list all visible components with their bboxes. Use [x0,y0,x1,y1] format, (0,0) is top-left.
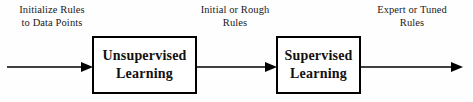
caption-rough-line-1: Initial or Rough [184,4,286,17]
caption-initialize-line-2: to Data Points [0,17,104,30]
caption-initialize-line-1: Initialize Rules [0,4,104,17]
caption-expert-or-tuned-rules: Expert or Tuned Rules [358,4,466,29]
box-supervised-line-2: Learning [290,65,347,83]
caption-expert-line-1: Expert or Tuned [358,4,466,17]
arrow-input-to-unsupervised [7,59,93,75]
arrow-unsupervised-to-supervised [196,59,277,75]
arrow-supervised-to-output [360,59,463,75]
box-unsupervised-line-1: Unsupervised [102,47,186,65]
box-supervised-line-1: Supervised [284,47,352,65]
caption-initialize-rules: Initialize Rules to Data Points [0,4,104,29]
box-unsupervised-line-2: Learning [116,65,173,83]
flowchart-diagram: Initialize Rules to Data Points Initial … [0,0,473,102]
process-box-supervised-learning[interactable]: Supervised Learning [276,36,361,94]
caption-rough-line-2: Rules [184,17,286,30]
caption-initial-or-rough-rules: Initial or Rough Rules [184,4,286,29]
process-box-unsupervised-learning[interactable]: Unsupervised Learning [92,36,197,94]
caption-expert-line-2: Rules [358,17,466,30]
